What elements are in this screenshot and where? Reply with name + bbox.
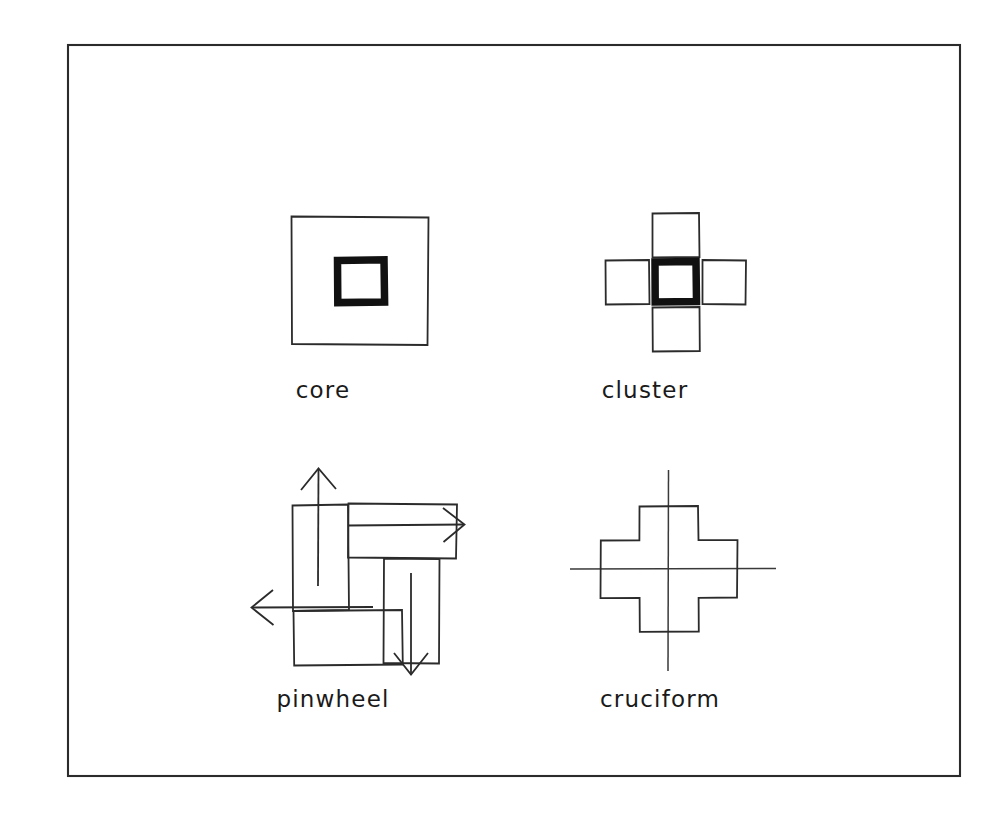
figure-core: core (292, 217, 429, 404)
pinwheel-arrow-left (252, 590, 374, 625)
cruciform-centerline-vertical (668, 470, 669, 671)
outer-border-frame (68, 45, 960, 776)
pinwheel-bar-left (293, 505, 350, 612)
diagram-canvas: core cluster (0, 0, 1007, 822)
pinwheel-bar-top (348, 504, 457, 559)
cluster-satellite-east (703, 260, 747, 305)
cluster-satellite-south (653, 307, 700, 352)
cluster-label: cluster (602, 377, 689, 403)
cluster-center-square (655, 262, 697, 303)
pinwheel-bar-bottom (294, 610, 403, 666)
pinwheel-label: pinwheel (276, 686, 389, 712)
figure-cruciform: cruciform (570, 470, 776, 712)
core-inner-square (338, 260, 385, 303)
pinwheel-arrow-down (394, 573, 428, 675)
core-outer-square (292, 217, 429, 346)
core-label: core (296, 377, 351, 403)
pinwheel-arrow-right (348, 508, 465, 542)
figure-cluster: cluster (602, 213, 746, 403)
diagram-svg: core cluster (0, 0, 1007, 822)
cruciform-label: cruciform (600, 686, 720, 712)
cluster-satellite-north (653, 213, 700, 258)
pinwheel-arrow-up (301, 469, 336, 587)
figure-pinwheel: pinwheel (252, 469, 465, 713)
cluster-satellite-west (606, 260, 650, 305)
